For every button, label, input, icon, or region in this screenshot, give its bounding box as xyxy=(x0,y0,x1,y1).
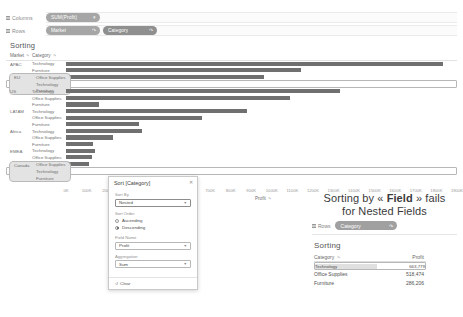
header-category[interactable]: Category ↷ xyxy=(32,53,66,58)
bar-track xyxy=(66,134,457,141)
table-row[interactable]: Furniture xyxy=(32,101,457,108)
sort-desc-icon[interactable]: ↷ xyxy=(389,223,393,229)
category-label[interactable]: Office Supplies xyxy=(36,162,70,167)
market-group[interactable]: AfricaTechnologyOffice SuppliesFurniture xyxy=(6,128,457,148)
category-label[interactable]: Office Supplies xyxy=(32,135,66,140)
market-group[interactable]: USTechnologyOffice SuppliesFurniture xyxy=(6,88,457,108)
clear-button[interactable]: ↺ Clear xyxy=(115,281,131,286)
header-market[interactable]: Market ↷ xyxy=(6,53,32,58)
aggregation-select[interactable]: Sum ▼ xyxy=(115,260,191,268)
table-row[interactable]: Office Supplies xyxy=(36,162,70,169)
table-row[interactable]: Office Supplies xyxy=(32,154,457,161)
category-label[interactable]: Technology xyxy=(32,148,66,153)
table-row[interactable]: Furniture xyxy=(32,67,457,74)
note-table-row[interactable]: Furniture286,206 xyxy=(314,279,426,288)
category-label[interactable]: Technology xyxy=(32,109,66,114)
bar-mark[interactable] xyxy=(66,149,95,153)
bar-mark[interactable] xyxy=(66,96,290,100)
note-section-title: Sorting xyxy=(314,241,457,250)
note-rows-shelf[interactable]: Rows Category ↷ xyxy=(312,221,457,230)
category-label[interactable]: Technology xyxy=(36,169,70,174)
note-table-row[interactable]: Office Supplies518,474 xyxy=(314,270,426,279)
market-group[interactable]: EUOffice SuppliesTechnologyFurniture xyxy=(6,80,457,88)
axis-title[interactable]: Profit ↷ xyxy=(255,196,271,201)
category-label[interactable]: Furniture xyxy=(32,102,66,107)
rows-shelf-drop[interactable]: Market ↷ Category ↷ xyxy=(46,25,457,36)
sort-dialog[interactable]: Sort [Category] ✕ Sort By Nested ▼ Sort … xyxy=(108,176,198,290)
sort-order-label: Sort Order xyxy=(115,211,191,216)
sort-icon[interactable]: ↷ xyxy=(53,53,56,58)
bar-track xyxy=(66,88,457,95)
table-row[interactable]: Furniture xyxy=(32,161,457,168)
category-label[interactable]: Furniture xyxy=(32,142,66,147)
pill-market[interactable]: Market ↷ xyxy=(46,26,100,35)
category-label[interactable]: Office Supplies xyxy=(36,75,70,80)
close-icon[interactable]: ✕ xyxy=(189,180,193,185)
table-row[interactable]: Office Supplies xyxy=(32,95,457,102)
table-row[interactable]: Technology xyxy=(32,88,457,95)
category-label[interactable]: Technology xyxy=(32,89,66,94)
table-row[interactable]: Furniture xyxy=(36,175,70,182)
category-label[interactable]: Furniture xyxy=(36,176,70,181)
chevron-down-icon[interactable]: ▾ xyxy=(93,15,96,20)
table-row[interactable]: Technology xyxy=(32,128,457,135)
table-row[interactable]: Furniture xyxy=(32,121,457,128)
field-name-select[interactable]: Profit ▼ xyxy=(115,242,191,250)
radio-descending[interactable]: Descending xyxy=(115,224,191,231)
sort-icon[interactable]: ↷ xyxy=(26,53,29,58)
note-pill-category[interactable]: Category ↷ xyxy=(335,221,397,230)
table-row[interactable]: Office Supplies xyxy=(32,115,457,122)
market-group[interactable]: CanadaOffice SuppliesTechnologyFurniture xyxy=(6,167,457,175)
table-row[interactable]: Furniture xyxy=(32,141,457,148)
note-table-row[interactable]: Technology663,779 xyxy=(314,262,426,270)
market-group[interactable]: LATAMTechnologyOffice SuppliesFurniture xyxy=(6,108,457,128)
columns-shelf[interactable]: Columns SUM(Profit) ▾ xyxy=(0,12,457,23)
bar-mark[interactable] xyxy=(66,135,113,139)
category-label[interactable]: Furniture xyxy=(32,68,66,73)
bar-mark[interactable] xyxy=(66,62,443,66)
market-label[interactable]: LATAM xyxy=(6,108,32,128)
radio-ascending[interactable]: Ascending xyxy=(115,217,191,224)
market-label[interactable]: Canada xyxy=(10,162,36,182)
pill-category[interactable]: Category ↷ xyxy=(103,26,157,35)
market-group[interactable]: APACTechnologyFurnitureOffice Supplies xyxy=(6,61,457,81)
bar-mark[interactable] xyxy=(66,89,340,93)
table-row[interactable]: Technology xyxy=(32,108,457,115)
category-label[interactable]: Technology xyxy=(32,61,66,66)
bar-mark[interactable] xyxy=(66,155,92,159)
market-label[interactable]: US xyxy=(6,88,32,108)
table-row[interactable]: Technology xyxy=(36,81,70,88)
rows-shelf[interactable]: Rows Market ↷ Category ↷ xyxy=(0,25,457,36)
field-name-value: Profit xyxy=(119,243,129,248)
bar-mark[interactable] xyxy=(66,129,142,133)
bar-mark[interactable] xyxy=(66,109,247,113)
bar-mark[interactable] xyxy=(66,116,202,120)
category-label[interactable]: Office Supplies xyxy=(32,155,66,160)
category-label[interactable]: Furniture xyxy=(32,122,66,127)
category-label[interactable]: Technology xyxy=(32,129,66,134)
columns-shelf-drop[interactable]: SUM(Profit) ▾ xyxy=(46,12,457,23)
market-label[interactable]: Africa xyxy=(6,128,32,148)
bar-mark[interactable] xyxy=(66,68,301,72)
sort-icon[interactable]: ↷ xyxy=(268,196,271,201)
table-row[interactable]: Office Supplies xyxy=(32,134,457,141)
category-label[interactable]: Technology xyxy=(36,82,70,87)
table-row[interactable]: Office Supplies xyxy=(32,74,457,81)
category-label[interactable]: Office Supplies xyxy=(32,115,66,120)
sort-desc-icon[interactable]: ↷ xyxy=(149,28,153,33)
pill-sum-profit[interactable]: SUM(Profit) ▾ xyxy=(46,13,100,22)
category-label[interactable]: Office Supplies xyxy=(32,96,66,101)
note-col-category[interactable]: Category ↷ xyxy=(314,254,376,260)
table-row[interactable]: Office Supplies xyxy=(36,74,70,81)
sort-by-select[interactable]: Nested ▼ xyxy=(115,199,191,207)
sort-desc-icon[interactable]: ↷ xyxy=(92,28,96,33)
market-group[interactable]: EMEATechnologyOffice SuppliesFurniture xyxy=(6,148,457,168)
bar-mark[interactable] xyxy=(66,122,139,126)
table-row[interactable]: Technology xyxy=(32,61,457,68)
table-row[interactable]: Technology xyxy=(32,148,457,155)
bar-mark[interactable] xyxy=(66,75,264,79)
bar-mark[interactable] xyxy=(66,102,99,106)
table-row[interactable]: Technology xyxy=(36,168,70,175)
bar-mark[interactable] xyxy=(66,142,93,146)
sort-icon[interactable]: ↷ xyxy=(337,255,340,260)
